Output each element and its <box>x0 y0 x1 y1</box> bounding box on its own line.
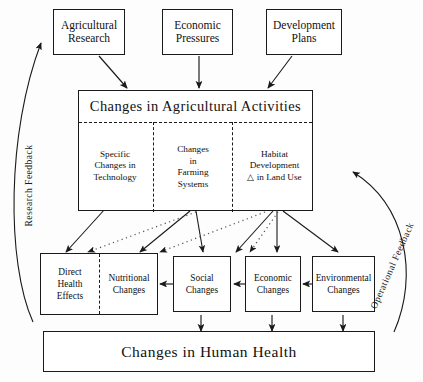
central-divider-horizontal <box>79 122 312 123</box>
central-to-outcomes-solid <box>66 209 338 252</box>
central-divider-vertical-right <box>232 122 233 212</box>
box-environmental-changes[interactable]: Environmental Changes <box>312 256 375 312</box>
box-agricultural-research[interactable]: Agricultural Research <box>53 9 125 55</box>
central-box-title: Changes in Agricultural Activities <box>79 91 312 122</box>
box-changes-in-human-health[interactable]: Changes in Human Health <box>43 331 375 372</box>
box-development-plans-label: Development Plans <box>273 19 335 45</box>
cell-changes-farming-systems[interactable]: Changes in Farming Systems <box>159 129 227 205</box>
cell-direct-health-effects[interactable]: Direct Health Effects <box>41 254 99 314</box>
cell-specific-changes-technology[interactable]: Specific Changes in Technology <box>81 133 149 199</box>
box-development-plans[interactable]: Development Plans <box>266 9 342 55</box>
cell-habitat-development[interactable]: Habitat Development △ in Land Use <box>237 133 312 199</box>
label-research-feedback: Research Feedback <box>23 145 34 227</box>
diagram-canvas: Agricultural Research Economic Pressures… <box>0 0 423 382</box>
outcomes-to-health-arrows <box>201 315 343 331</box>
box-economic-changes[interactable]: Economic Changes <box>245 256 301 312</box>
cell-nutritional-changes[interactable]: Nutritional Changes <box>99 254 159 314</box>
box-agricultural-research-label: Agricultural Research <box>61 19 117 45</box>
box-economic-pressures-label: Economic Pressures <box>174 19 221 45</box>
central-divider-vertical-left <box>153 122 154 212</box>
box-health-nutrition-group[interactable]: Direct Health Effects Nutritional Change… <box>40 253 158 315</box>
box-social-changes[interactable]: Social Changes <box>173 256 231 312</box>
central-to-outcomes-dotted <box>88 212 278 252</box>
box-economic-pressures[interactable]: Economic Pressures <box>162 9 233 55</box>
box-changes-in-agricultural-activities[interactable]: Changes in Agricultural Activities Speci… <box>78 90 313 211</box>
source-to-central-arrows <box>99 56 292 88</box>
